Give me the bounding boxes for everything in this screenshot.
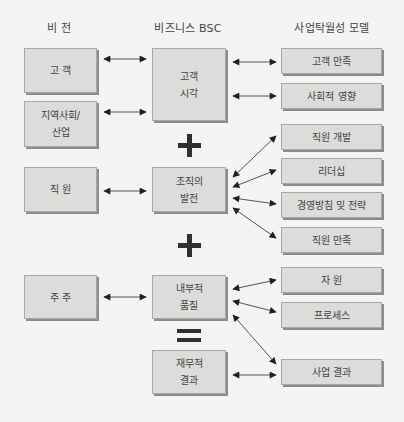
arrow-internal-quality-to-resources [233, 280, 276, 289]
arrow-internal-quality-to-business-results [233, 315, 276, 364]
arrow-org-growth-to-leadership [233, 170, 276, 187]
arrow-org-growth-to-employee-development [233, 136, 276, 177]
arrow-org-growth-to-policy-strategy [233, 198, 276, 204]
arrow-internal-quality-to-process [233, 301, 276, 312]
arrow-org-growth-to-employee-satisfaction [233, 208, 276, 238]
connector-arrows [0, 0, 404, 422]
